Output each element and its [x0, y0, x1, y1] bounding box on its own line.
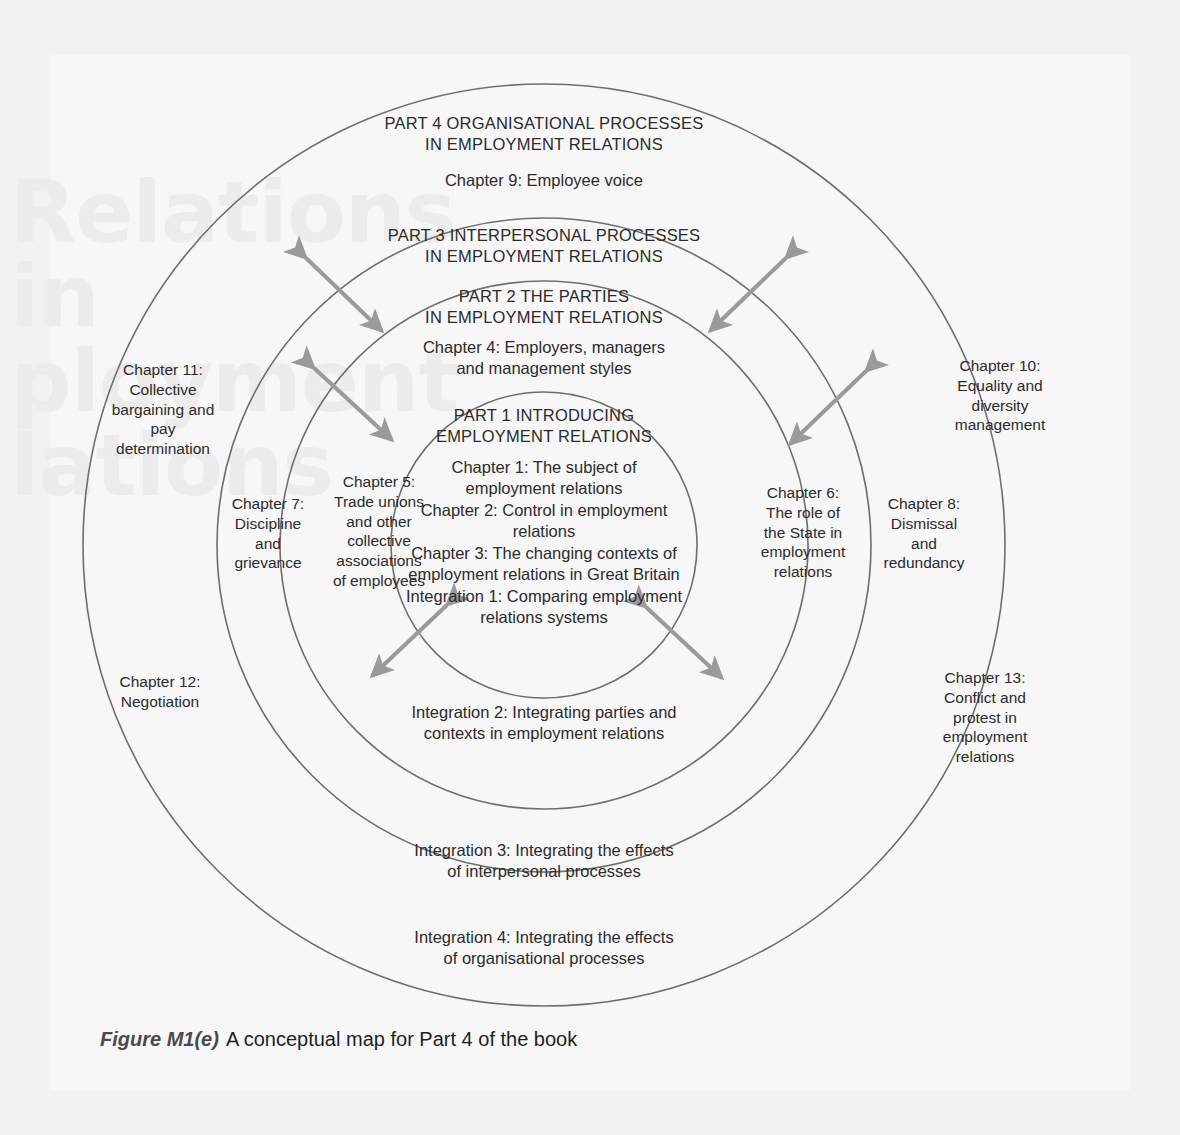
part-4-heading: PART 4 ORGANISATIONAL PROCESSES IN EMPLO… [294, 113, 794, 156]
arrow-mid-left [314, 368, 392, 440]
figure-caption: Figure M1(e)A conceptual map for Part 4 … [100, 1028, 577, 1051]
part-2-heading: PART 2 THE PARTIES IN EMPLOYMENT RELATIO… [344, 286, 744, 329]
part-1-heading: PART 1 INTRODUCING EMPLOYMENT RELATIONS [394, 405, 694, 448]
chapter-12-label: Chapter 12: Negotiation [85, 672, 235, 712]
chapter-7-label: Chapter 7: Discipline and grievance [214, 494, 322, 573]
chapter-4-label: Chapter 4: Employers, managers and manag… [344, 337, 744, 378]
chapter-13-label: Chapter 13: Conflict and protest in empl… [910, 668, 1060, 767]
integration-1-label: Integration 1: Comparing employment rela… [364, 586, 724, 627]
figure-number: Figure M1(e) [100, 1028, 219, 1050]
chapter-10-label: Chapter 10: Equality and diversity manag… [926, 356, 1074, 435]
integration-3-label: Integration 3: Integrating the effects o… [364, 840, 724, 881]
part-3-heading: PART 3 INTERPERSONAL PROCESSES IN EMPLOY… [294, 225, 794, 268]
figure-caption-text: A conceptual map for Part 4 of the book [226, 1028, 577, 1050]
integration-2-label: Integration 2: Integrating parties and c… [364, 702, 724, 743]
chapter-6-label: Chapter 6: The role of the State in empl… [744, 483, 862, 582]
integration-4-label: Integration 4: Integrating the effects o… [364, 927, 724, 968]
chapter-8-label: Chapter 8: Dismissal and redundancy [866, 494, 982, 573]
chapter-5-label: Chapter 5: Trade unions and other collec… [319, 472, 439, 591]
chapter-9-label: Chapter 9: Employee voice [344, 170, 744, 191]
chapter-1-label: Chapter 1: The subject of employment rel… [394, 457, 694, 498]
conceptual-map-figure: PART 4 ORGANISATIONAL PROCESSES IN EMPLO… [0, 0, 1180, 1135]
chapter-11-label: Chapter 11: Collective bargaining and pa… [93, 360, 233, 459]
